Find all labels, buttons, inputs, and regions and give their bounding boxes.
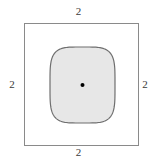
figure-container: 2 2 2 2 [0,0,157,167]
center-point [81,83,85,87]
diagram-canvas [0,0,157,167]
dimension-label-left: 2 [6,79,18,90]
dimension-label-bottom: 2 [0,147,157,158]
dimension-label-top: 2 [0,6,157,17]
dimension-label-right: 2 [139,79,151,90]
